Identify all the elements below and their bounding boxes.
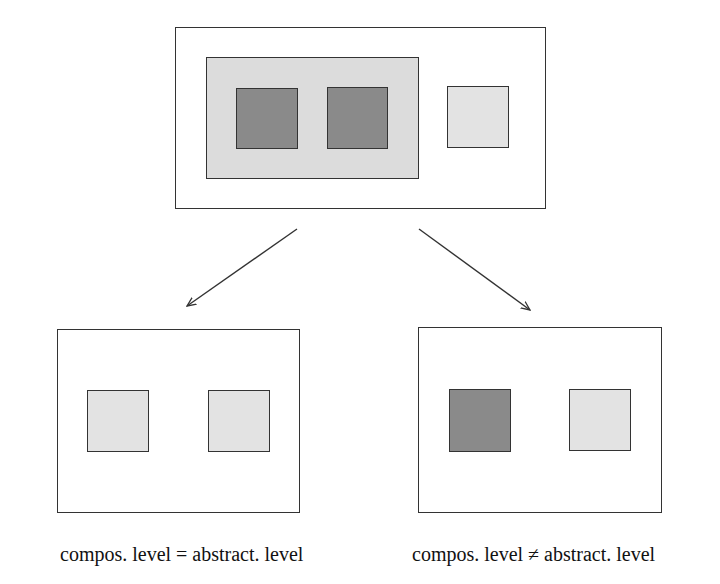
right-dark-square bbox=[449, 389, 511, 452]
right-light-square bbox=[569, 389, 631, 451]
right-caption: compos. level ≠ abstract. level bbox=[412, 543, 655, 566]
arrow-right bbox=[419, 229, 530, 310]
arrow-left bbox=[187, 229, 297, 306]
left-caption: compos. level = abstract. level bbox=[60, 543, 303, 566]
left-light-square-2 bbox=[208, 390, 270, 452]
left-light-square-1 bbox=[87, 390, 149, 452]
